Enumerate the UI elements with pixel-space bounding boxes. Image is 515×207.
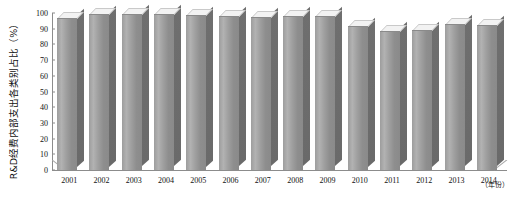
bar-front-face xyxy=(89,14,109,170)
bar-side-face xyxy=(77,9,84,167)
y-axis-tick-mark xyxy=(52,138,55,139)
x-axis-tick-label: 2003 xyxy=(126,176,142,185)
bar-side-face xyxy=(271,8,278,167)
x-axis-tick-label: 2006 xyxy=(223,176,239,185)
bar-side-face xyxy=(206,6,213,166)
x-axis-tick-label: 2005 xyxy=(190,176,206,185)
y-axis-tick-mark xyxy=(52,13,55,14)
chart-container: R&D经费内部支出各类别占比（%） 0102030405060708090100… xyxy=(0,0,515,207)
bar xyxy=(219,17,239,170)
y-axis-tick-mark xyxy=(52,122,55,123)
y-axis-tick-label: 100 xyxy=(36,9,48,18)
bar-front-face xyxy=(315,16,335,170)
bar-side-face xyxy=(497,16,504,167)
bar-front-face xyxy=(57,18,77,171)
x-axis-tick-label: 2010 xyxy=(352,176,368,185)
bar xyxy=(348,27,368,170)
bar-front-face xyxy=(186,15,206,170)
x-axis-tick-label: 2004 xyxy=(158,176,174,185)
bar xyxy=(154,15,174,170)
bar xyxy=(122,15,142,170)
plot-area: 0102030405060708090100 xyxy=(52,13,504,170)
bar-front-face xyxy=(219,16,239,170)
bar-front-face xyxy=(122,14,142,170)
bar-side-face xyxy=(174,5,181,167)
x-axis-unit-label: （年份） xyxy=(481,179,509,189)
bar-side-face xyxy=(109,6,116,167)
y-axis-tick-label: 10 xyxy=(40,150,48,159)
y-axis-tick-mark xyxy=(52,44,55,45)
bar-side-face xyxy=(400,22,407,166)
y-axis-tick-label: 20 xyxy=(40,134,48,143)
bar-front-face xyxy=(154,14,174,170)
bar-side-face xyxy=(368,17,375,166)
y-axis-tick-label: 60 xyxy=(40,71,48,80)
y-axis-tick-label: 40 xyxy=(40,103,48,112)
x-axis-tick-label: 2002 xyxy=(93,176,109,185)
bar xyxy=(89,15,109,170)
x-axis-tick-label: 2012 xyxy=(416,176,432,185)
y-axis-tick-mark xyxy=(52,28,55,29)
bar xyxy=(186,16,206,170)
x-axis-tick-label: 2001 xyxy=(61,176,77,185)
y-axis-title: R&D经费内部支出各类别占比（%） xyxy=(6,9,20,189)
bar-front-face xyxy=(477,25,497,170)
x-axis-tick-label: 2009 xyxy=(319,176,335,185)
y-axis-tick-label: 80 xyxy=(40,40,48,49)
bar-side-face xyxy=(432,21,439,166)
bar-side-face xyxy=(239,7,246,166)
y-axis-tick-label: 90 xyxy=(40,24,48,33)
bar-front-face xyxy=(445,24,465,170)
x-axis-tick-label: 2008 xyxy=(287,176,303,185)
bar-front-face xyxy=(412,30,432,170)
bar-front-face xyxy=(348,26,368,170)
bar-side-face xyxy=(465,15,472,167)
y-axis-tick-mark xyxy=(52,91,55,92)
bar-side-face xyxy=(335,7,342,166)
bar-front-face xyxy=(283,16,303,170)
bar xyxy=(251,18,271,170)
bar xyxy=(315,17,335,170)
y-axis-tick-mark xyxy=(52,75,55,76)
bar xyxy=(57,19,77,171)
y-axis-tick-label: 70 xyxy=(40,56,48,65)
bar xyxy=(477,26,497,170)
x-axis-tick-label: 2007 xyxy=(255,176,271,185)
x-axis-line xyxy=(52,170,507,171)
bar-side-face xyxy=(142,5,149,167)
x-axis-tick-label: 2011 xyxy=(384,176,400,185)
y-axis-tick-label: 0 xyxy=(44,166,48,175)
bar xyxy=(445,25,465,170)
y-axis-tick-mark xyxy=(52,60,55,61)
y-axis-tick-label: 30 xyxy=(40,118,48,127)
bar-front-face xyxy=(251,17,271,170)
bar xyxy=(380,32,400,170)
y-axis-tick-mark xyxy=(52,107,55,108)
y-axis-tick-mark xyxy=(52,154,55,155)
y-axis-tick-mark xyxy=(52,170,55,171)
bar-side-face xyxy=(303,7,310,166)
bar-front-face xyxy=(380,31,400,170)
y-axis-tick-label: 50 xyxy=(40,87,48,96)
bar xyxy=(412,31,432,170)
bar xyxy=(283,17,303,170)
x-axis-tick-label: 2013 xyxy=(449,176,465,185)
